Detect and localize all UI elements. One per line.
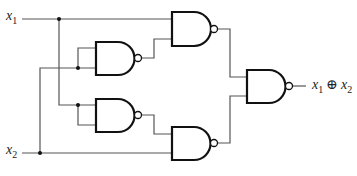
junction-dot-x1	[57, 17, 61, 21]
output-sub-right: 2	[347, 84, 352, 95]
output-sub-left: 1	[318, 84, 323, 95]
nand-gate-icon	[247, 70, 286, 103]
wire-x1-to-g3-b	[78, 105, 96, 125]
nand-gate-icon	[172, 12, 211, 46]
wire-g2-to-g1	[142, 39, 172, 58]
junction-dot-g3-inputs	[76, 103, 80, 107]
output-label: x1⊕x2	[312, 76, 352, 95]
nand-gate-icon	[96, 99, 135, 132]
wire-g3-to-g4	[142, 115, 172, 134]
circuit-diagram: x1 x2 x1⊕x2	[0, 0, 357, 176]
wire-x2-to-g2	[40, 68, 96, 153]
input-subscript: 1	[12, 15, 17, 26]
junction-dot-g2-inputs	[76, 66, 80, 70]
input-label-x1: x1	[6, 8, 17, 26]
inversion-bubble-icon	[286, 83, 293, 90]
nand-gate-g1	[172, 12, 218, 46]
nand-gate-g5	[247, 70, 293, 103]
inversion-bubble-icon	[135, 112, 142, 119]
nand-gate-icon	[172, 127, 211, 160]
junction-dot-x2	[38, 151, 42, 155]
xor-operator-icon: ⊕	[326, 77, 338, 92]
inversion-bubble-icon	[135, 55, 142, 62]
nand-gate-g4	[172, 127, 218, 160]
input-subscript: 2	[12, 149, 17, 160]
nand-gate-g3	[96, 99, 142, 132]
nand-gate-g2	[96, 42, 142, 75]
wire-g1-to-g5	[218, 29, 247, 77]
circuit-svg	[0, 0, 357, 176]
inversion-bubble-icon	[211, 26, 218, 33]
nand-gate-icon	[96, 42, 135, 75]
wire-g4-to-g5	[218, 96, 247, 143]
input-label-x2: x2	[6, 142, 17, 160]
inversion-bubble-icon	[211, 140, 218, 147]
wire-x2-to-g2-b	[78, 48, 96, 68]
